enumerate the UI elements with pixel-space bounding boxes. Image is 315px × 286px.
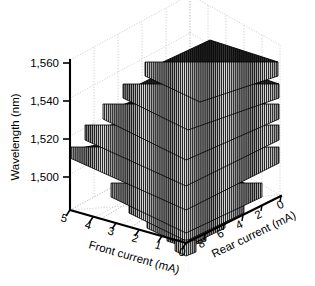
figure-3d-surface-plot: 1,560 1,540 1,520 1,500 Wavelength (nm) …	[0, 0, 315, 286]
z-tick-1540: 1,540	[30, 95, 59, 107]
z-tick-1500: 1,500	[30, 171, 59, 183]
z-tick-1520: 1,520	[30, 133, 59, 145]
z-axis-tick-labels: 1,560 1,540 1,520 1,500	[30, 57, 59, 183]
z-tick-1560: 1,560	[30, 57, 59, 69]
z-axis-title: Wavelength (nm)	[9, 93, 21, 180]
